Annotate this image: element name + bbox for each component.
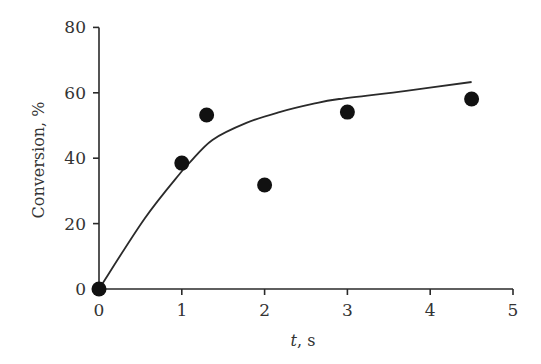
- x-tick-label: 5: [508, 300, 519, 320]
- data-point-marker: [199, 108, 214, 123]
- fit-curve-path: [99, 82, 472, 289]
- x-axis-ticks: 012345: [94, 289, 519, 320]
- data-point-marker: [92, 282, 107, 297]
- data-point-marker: [257, 178, 272, 193]
- conversion-chart: 020406080 012345 Conversion, % t, s: [0, 0, 541, 364]
- model-fit-curve: [99, 82, 472, 289]
- x-tick-label: 3: [342, 300, 353, 320]
- y-tick-label: 40: [64, 148, 86, 168]
- x-axis-label: t, s: [291, 331, 316, 350]
- data-points: [92, 92, 480, 297]
- y-tick-label: 60: [64, 83, 86, 103]
- x-tick-label: 1: [176, 300, 187, 320]
- y-tick-label: 80: [64, 17, 86, 37]
- x-tick-label: 0: [94, 300, 105, 320]
- y-axis-ticks: 020406080: [64, 17, 99, 299]
- axes: [99, 27, 513, 289]
- data-point-marker: [174, 156, 189, 171]
- y-axis-label: Conversion, %: [29, 102, 48, 219]
- y-tick-label: 0: [75, 279, 86, 299]
- x-tick-label: 4: [425, 300, 436, 320]
- y-tick-label: 20: [64, 214, 86, 234]
- data-point-marker: [340, 105, 355, 120]
- x-axis-label-unit: , s: [297, 331, 315, 350]
- x-tick-label: 2: [259, 300, 270, 320]
- data-point-marker: [464, 92, 479, 107]
